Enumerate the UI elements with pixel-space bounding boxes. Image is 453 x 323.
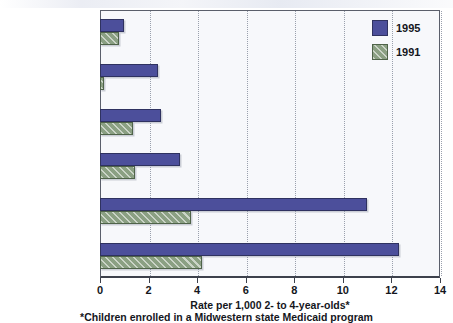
x-tick-label: 14 bbox=[420, 284, 453, 296]
chart-footnote: *Children enrolled in a Midwestern state… bbox=[0, 311, 453, 323]
gridline-14 bbox=[441, 11, 442, 276]
bar-1991[interactable] bbox=[100, 77, 104, 90]
x-tick-label: 10 bbox=[323, 284, 363, 296]
x-tick-label: 6 bbox=[226, 284, 266, 296]
bar-1995[interactable] bbox=[100, 198, 367, 211]
bar-1995[interactable] bbox=[100, 64, 158, 77]
bar-1991[interactable] bbox=[100, 32, 119, 45]
bar-1995[interactable] bbox=[100, 153, 180, 166]
x-tick-mark bbox=[294, 278, 295, 283]
gridline-4 bbox=[198, 11, 199, 276]
x-tick-label: 4 bbox=[177, 284, 217, 296]
bar-1991[interactable] bbox=[100, 166, 135, 179]
x-tick-mark bbox=[149, 278, 150, 283]
gridline-8 bbox=[295, 11, 296, 276]
x-tick-label: 2 bbox=[129, 284, 169, 296]
x-tick-label: 12 bbox=[371, 284, 411, 296]
gridline-10 bbox=[344, 11, 345, 276]
x-tick-mark bbox=[440, 278, 441, 283]
bar-1991[interactable] bbox=[100, 122, 133, 135]
bar-1991[interactable] bbox=[100, 256, 202, 269]
bar-1995[interactable] bbox=[100, 243, 399, 256]
x-tick-mark bbox=[246, 278, 247, 283]
solid-blue-swatch bbox=[372, 20, 388, 36]
legend-label-1995: 1995 bbox=[396, 22, 420, 34]
x-tick-label: 0 bbox=[80, 284, 120, 296]
x-tick-mark bbox=[343, 278, 344, 283]
x-tick-label: 8 bbox=[274, 284, 314, 296]
x-tick-mark bbox=[197, 278, 198, 283]
hatched-green-swatch bbox=[372, 44, 388, 60]
x-tick-mark bbox=[100, 278, 101, 283]
gridline-2 bbox=[150, 11, 151, 276]
legend-label-1991: 1991 bbox=[396, 46, 420, 58]
gridline-6 bbox=[247, 11, 248, 276]
bar-1995[interactable] bbox=[100, 109, 161, 122]
legend-item-1991[interactable]: 1991 bbox=[372, 40, 420, 64]
x-axis-title: Rate per 1,000 2- to 4-year-olds* bbox=[100, 299, 440, 311]
x-tick-mark bbox=[391, 278, 392, 283]
bar-1991[interactable] bbox=[100, 211, 191, 224]
chart-legend: 1995 1991 bbox=[372, 16, 420, 64]
legend-item-1995[interactable]: 1995 bbox=[372, 16, 420, 40]
bar-1995[interactable] bbox=[100, 19, 124, 32]
